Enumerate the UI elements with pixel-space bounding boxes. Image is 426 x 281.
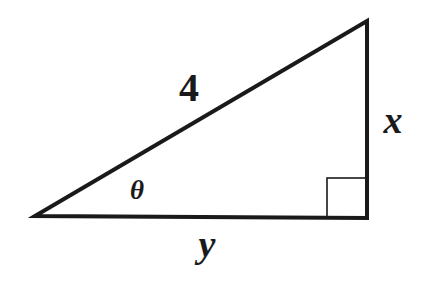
adjacent-side-label: y xyxy=(195,223,216,265)
hypotenuse-label: 4 xyxy=(179,65,199,110)
angle-label: θ xyxy=(130,175,144,205)
right-triangle-diagram: 4 x θ y xyxy=(0,0,426,281)
triangle xyxy=(35,21,367,218)
opposite-side-label: x xyxy=(383,99,403,141)
right-angle-marker xyxy=(327,178,367,218)
